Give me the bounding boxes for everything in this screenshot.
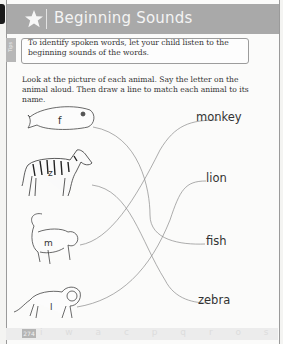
lion-icon <box>14 287 80 318</box>
match-lines <box>77 120 218 307</box>
zebra-icon <box>22 150 92 196</box>
matching-drawing: f z m l <box>0 0 283 344</box>
name-fish: fish <box>206 234 227 248</box>
monkey-letter: m <box>44 238 53 248</box>
name-zebra: zebra <box>198 293 230 307</box>
line-monkey-to-monkey <box>80 120 218 245</box>
fish-letter: f <box>58 115 62 126</box>
page-number: 274 <box>22 329 36 338</box>
name-monkey: monkey <box>196 110 242 124</box>
lion-letter: l <box>50 302 53 312</box>
line-lion-to-lion <box>77 181 206 307</box>
zebra-letter: z <box>48 168 53 178</box>
monkey-icon <box>32 214 78 264</box>
footer-letters: i w a c p q r o s t u v w z <box>40 327 270 337</box>
name-lion: lion <box>206 171 227 185</box>
